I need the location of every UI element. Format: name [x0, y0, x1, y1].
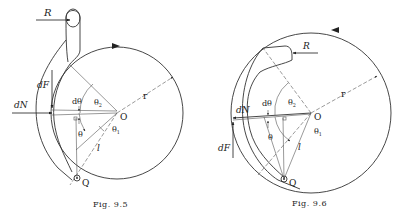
caption-fig-9-6: Fig. 9.6	[292, 199, 327, 208]
label-dn: dN	[14, 100, 29, 110]
label-l: l	[298, 142, 301, 152]
label-theta1: θ1	[314, 127, 322, 137]
label-q: Q	[82, 178, 89, 188]
caption-fig-9-5: Fig. 9.5	[93, 200, 128, 209]
brake-diagrams: R dF dN r dθ θ2 θ θ1 O l Q Fig. 9.5	[0, 0, 393, 217]
rotation-arrow-icon	[331, 27, 339, 33]
label-dn: dN	[236, 105, 251, 115]
label-theta2: θ2	[288, 98, 296, 108]
brake-shoe	[242, 46, 300, 189]
label-r: R	[43, 7, 52, 18]
label-dtheta: dθ	[72, 97, 82, 106]
figure-9-6: R dN dF r dθ θ2 θ θ1 O l Q Fig. 9.6	[218, 27, 391, 208]
label-df: dF	[37, 80, 50, 90]
label-o: O	[314, 112, 321, 122]
label-theta: θ	[268, 133, 273, 142]
label-r-radius: r	[341, 89, 346, 99]
rotation-arrow-icon	[112, 43, 120, 49]
label-r-radius: r	[143, 91, 148, 101]
lever-top	[66, 9, 80, 27]
label-df: dF	[218, 143, 231, 153]
label-theta1: θ1	[112, 125, 120, 135]
label-theta2: θ2	[94, 98, 102, 108]
label-l: l	[97, 143, 100, 153]
label-q: Q	[289, 178, 296, 188]
figure-9-5: R dF dN r dθ θ2 θ θ1 O l Q Fig. 9.5	[12, 7, 183, 209]
label-theta: θ	[78, 130, 83, 139]
label-o: O	[120, 112, 127, 122]
brake-lever	[36, 11, 80, 181]
label-r: R	[302, 41, 310, 51]
label-dtheta: dθ	[262, 99, 272, 108]
